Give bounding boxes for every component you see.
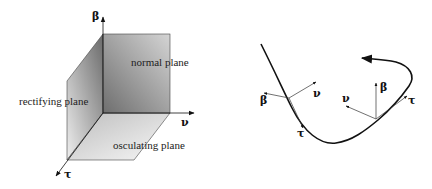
nu-axis-label: ν	[181, 116, 189, 129]
beta-axis-label: β	[92, 10, 99, 23]
beta-label-2: β	[380, 81, 387, 94]
normal-plane-label: normal plane	[131, 56, 189, 68]
nu-vector-2	[346, 106, 376, 119]
rectifying-plane-label: rectifying plane	[19, 95, 88, 107]
nu-label-2: ν	[342, 92, 350, 105]
normal-plane	[103, 34, 170, 113]
frame-2: β ν τ	[342, 81, 415, 119]
frenet-frame-figure: β ν τ normal plane rectifying plane oscu…	[0, 0, 432, 189]
beta-label-1: β	[260, 94, 267, 107]
tau-label-1: τ	[297, 127, 304, 140]
left-diagram: β ν τ normal plane rectifying plane oscu…	[19, 10, 194, 181]
nu-label-1: ν	[313, 87, 321, 100]
tau-vector-1	[289, 98, 303, 128]
osculating-plane-label: osculating plane	[113, 139, 185, 151]
right-diagram: ν β τ β ν τ	[260, 44, 415, 143]
tau-vector-2	[376, 96, 407, 119]
nu-vector-1	[289, 82, 316, 98]
frame-1: ν β τ	[260, 82, 321, 140]
tau-axis-label: τ	[64, 168, 71, 181]
tau-label-2: τ	[408, 94, 415, 107]
space-curve	[261, 44, 412, 143]
